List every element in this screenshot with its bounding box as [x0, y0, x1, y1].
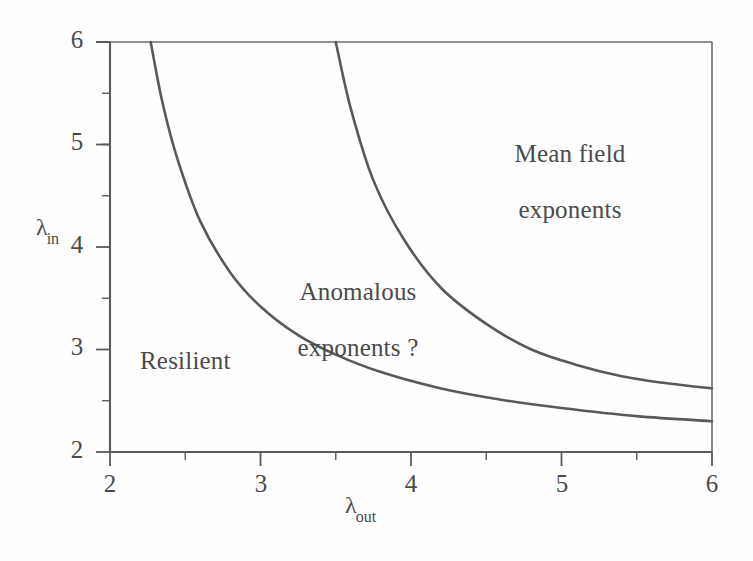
region-label-resilient: Resilient	[140, 347, 290, 375]
region-label-mean-field-line2: exponents	[455, 196, 685, 224]
region-label-mean-field: Mean field exponents	[455, 112, 685, 252]
y-axis-ticks-major	[96, 42, 110, 452]
x-axis-ticks-major	[110, 452, 712, 466]
y-axis-title-lambda: λ	[36, 214, 48, 240]
x-axis-title: λout	[345, 492, 377, 523]
x-tick-label-5: 5	[547, 470, 577, 498]
x-tick-label-2: 2	[95, 470, 125, 498]
x-tick-label-4: 4	[396, 470, 426, 498]
x-tick-label-3: 3	[246, 470, 276, 498]
x-axis-title-subscript: out	[356, 508, 376, 525]
y-tick-label-5: 5	[62, 128, 92, 156]
y-tick-label-4: 4	[62, 231, 92, 259]
x-tick-label-6: 6	[697, 470, 727, 498]
x-axis-title-lambda: λ	[345, 492, 357, 518]
region-label-anomalous-line1: Anomalous	[258, 278, 458, 306]
region-label-mean-field-line1: Mean field	[455, 140, 685, 168]
y-tick-label-3: 3	[62, 333, 92, 361]
y-axis-title: λin	[36, 214, 60, 245]
y-tick-label-6: 6	[62, 26, 92, 54]
y-tick-label-2: 2	[62, 436, 92, 464]
phase-diagram-figure: 6 5 4 3 2 2 3 4 5 6 λout λin Mean field …	[0, 0, 753, 561]
y-axis-title-subscript: in	[47, 230, 59, 247]
